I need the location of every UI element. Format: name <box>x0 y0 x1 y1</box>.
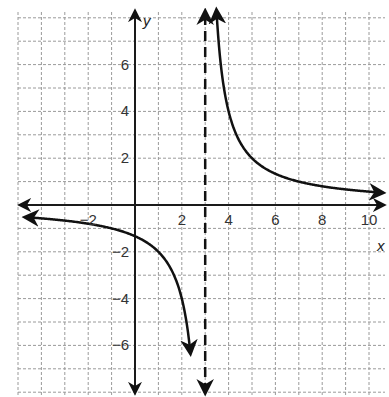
x-tick-label: 4 <box>224 211 232 228</box>
left-branch-curve <box>25 217 190 353</box>
y-tick-label: 6 <box>121 56 129 73</box>
axes <box>20 11 384 393</box>
x-tick-label: 10 <box>361 211 378 228</box>
y-tick-label: 2 <box>121 149 129 166</box>
grid-lines <box>18 12 385 395</box>
x-tick-label: 2 <box>178 211 186 228</box>
x-axis-label: x <box>376 237 385 254</box>
y-axis-label: y <box>142 12 152 29</box>
y-tick-label: 4 <box>121 102 129 119</box>
x-tick-label: 6 <box>271 211 279 228</box>
y-tick-label: −4 <box>112 290 129 307</box>
x-tick-label: 8 <box>318 211 326 228</box>
right-branch-curve <box>216 10 383 193</box>
y-tick-label: −2 <box>112 243 129 260</box>
y-tick-label: −6 <box>112 336 129 353</box>
graph: −2246810−6−4−2246 x y <box>0 0 389 397</box>
x-tick-label: −2 <box>80 211 97 228</box>
